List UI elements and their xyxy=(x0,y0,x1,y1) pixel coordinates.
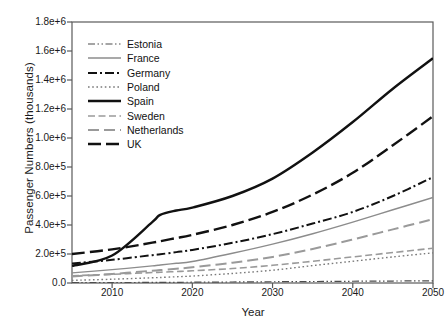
legend-label: Germany xyxy=(127,67,170,79)
legend-item: Sweden xyxy=(88,108,210,122)
chart-legend: EstoniaFranceGermanyPolandSpainSwedenNet… xyxy=(88,37,210,151)
series-line-france xyxy=(72,197,433,272)
legend-label: Estonia xyxy=(127,38,162,50)
legend-label: Poland xyxy=(127,81,160,93)
legend-item: UK xyxy=(88,137,210,151)
plot-area xyxy=(0,0,446,329)
legend-label: Spain xyxy=(127,95,154,107)
legend-line-swatch xyxy=(88,38,121,50)
legend-line-swatch xyxy=(88,52,121,64)
legend-line-swatch xyxy=(88,95,121,107)
legend-line-swatch xyxy=(88,124,121,136)
legend-line-swatch xyxy=(88,67,121,79)
legend-label: France xyxy=(127,52,160,64)
series-line-germany xyxy=(72,177,433,263)
legend-item: France xyxy=(88,51,210,65)
chart-container: Passenger Numbers (thousands) 0.02.0e+54… xyxy=(0,0,446,329)
legend-item: Poland xyxy=(88,80,210,94)
legend-item: Spain xyxy=(88,94,210,108)
legend-line-swatch xyxy=(88,81,121,93)
legend-item: Estonia xyxy=(88,37,210,51)
legend-line-swatch xyxy=(88,110,121,122)
legend-label: Netherlands xyxy=(127,124,184,136)
legend-line-swatch xyxy=(88,138,121,150)
legend-item: Netherlands xyxy=(88,123,210,137)
legend-label: Sweden xyxy=(127,110,165,122)
legend-item: Germany xyxy=(88,66,210,80)
legend-label: UK xyxy=(127,138,142,150)
